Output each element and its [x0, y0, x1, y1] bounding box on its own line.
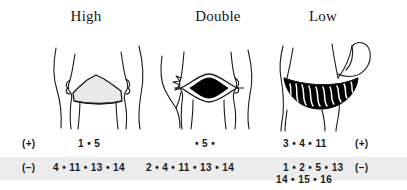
diagram-high-wrap — [42, 32, 158, 132]
sign-label-positive-right: (+) — [355, 138, 368, 149]
values-negative-low: 1 • 2 • 5 • 13 — [283, 162, 344, 173]
sign-label-negative-right: (−) — [355, 162, 368, 173]
values-negative-double: 2 • 4 • 11 • 13 • 14 — [146, 162, 234, 173]
band-shape-high — [73, 75, 122, 104]
figure-panel: High Double Low — [0, 0, 407, 190]
values-negative-high: 4 • 11 • 13 • 14 — [53, 162, 125, 173]
values-positive-low: 3 • 4 • 11 — [283, 138, 327, 149]
values-positive-double: • 5 • — [195, 138, 215, 149]
column-header-high: High — [46, 8, 126, 25]
sign-label-positive-left: (+) — [22, 138, 35, 149]
column-header-low: Low — [288, 8, 358, 25]
diagram-double-wrap — [152, 32, 266, 132]
sign-label-negative-left: (−) — [22, 162, 35, 173]
values-positive-high: 1 • 5 — [78, 138, 100, 149]
diagram-low-wrap — [262, 32, 390, 132]
values-negative-low-continued: 14 • 15 • 16 — [276, 174, 332, 185]
column-header-double: Double — [178, 8, 258, 25]
